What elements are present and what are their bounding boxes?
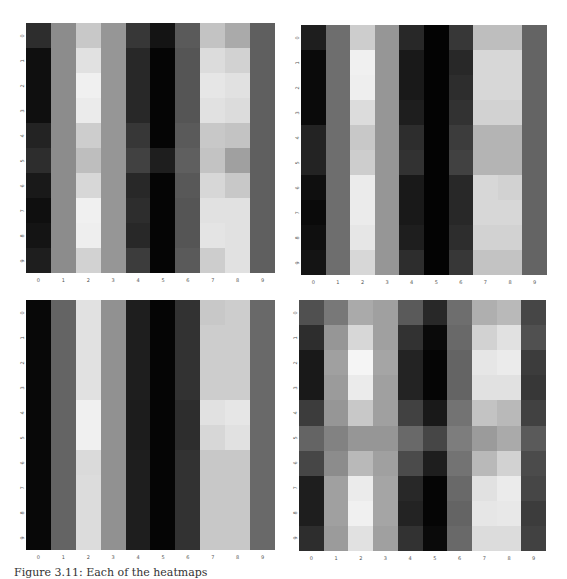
heatmap-cell bbox=[398, 451, 423, 476]
x-tick-label: 4 bbox=[126, 277, 151, 283]
heatmap-cell bbox=[51, 400, 76, 425]
heatmap-cell bbox=[348, 426, 373, 451]
heatmap-cell bbox=[375, 200, 400, 225]
y-tick-label: 8 bbox=[289, 225, 298, 250]
heatmap-cell bbox=[301, 250, 326, 275]
heatmap-cell bbox=[126, 48, 151, 73]
x-tick-label: 1 bbox=[326, 279, 351, 285]
heatmap-cell bbox=[26, 123, 51, 148]
heatmap-cell bbox=[324, 325, 349, 350]
heatmap-cell bbox=[473, 50, 498, 75]
x-tick-label: 1 bbox=[324, 555, 349, 561]
heatmap-cell bbox=[51, 450, 76, 475]
heatmap-plot-area bbox=[26, 300, 275, 550]
heatmap-cell bbox=[175, 325, 200, 350]
heatmap-cell bbox=[26, 375, 51, 400]
heatmap-cell bbox=[301, 50, 326, 75]
heatmap-cell bbox=[51, 73, 76, 98]
heatmap-cell bbox=[26, 500, 51, 525]
heatmap-cell bbox=[424, 75, 449, 100]
heatmap-cell bbox=[150, 450, 175, 475]
heatmap-cell bbox=[175, 73, 200, 98]
heatmap-cell bbox=[498, 225, 523, 250]
heatmap-cell bbox=[473, 225, 498, 250]
heatmap-cell bbox=[424, 200, 449, 225]
x-tick-label: 0 bbox=[301, 279, 326, 285]
heatmap-cell bbox=[200, 425, 225, 450]
heatmap-cell bbox=[76, 248, 101, 273]
heatmap-cell bbox=[101, 98, 126, 123]
heatmap-cell bbox=[398, 375, 423, 400]
y-tick-label: 1 bbox=[287, 325, 296, 350]
heatmap-cell bbox=[473, 25, 498, 50]
heatmap-cell bbox=[76, 325, 101, 350]
heatmap-cell bbox=[301, 225, 326, 250]
heatmap-cell bbox=[521, 325, 546, 350]
heatmap-cell bbox=[522, 25, 547, 50]
heatmap-cell bbox=[497, 350, 522, 375]
y-axis-ticks: 0123456789 bbox=[14, 300, 23, 550]
heatmap-cell bbox=[449, 100, 474, 125]
heatmap-cell bbox=[26, 325, 51, 350]
heatmap-cell bbox=[521, 526, 546, 551]
heatmap-cell bbox=[126, 123, 151, 148]
heatmap-cell bbox=[375, 175, 400, 200]
x-tick-label: 7 bbox=[472, 555, 497, 561]
heatmap-cell bbox=[497, 476, 522, 501]
heatmap-cell bbox=[250, 173, 275, 198]
heatmap-cell bbox=[373, 375, 398, 400]
heatmap-cell bbox=[150, 425, 175, 450]
heatmap-cell bbox=[225, 23, 250, 48]
heatmap-cell bbox=[399, 200, 424, 225]
heatmap-cell bbox=[200, 450, 225, 475]
x-tick-label: 6 bbox=[447, 555, 472, 561]
heatmap-cell bbox=[398, 325, 423, 350]
heatmap-cell bbox=[424, 225, 449, 250]
heatmap-cell bbox=[175, 300, 200, 325]
x-tick-label: 8 bbox=[497, 555, 522, 561]
x-tick-label: 5 bbox=[151, 554, 176, 560]
heatmap-cell bbox=[101, 475, 126, 500]
heatmap-cell bbox=[76, 23, 101, 48]
heatmap-cell bbox=[301, 25, 326, 50]
heatmap-cell bbox=[225, 248, 250, 273]
heatmap-cell bbox=[175, 500, 200, 525]
heatmap-cell bbox=[473, 100, 498, 125]
heatmap-cell bbox=[126, 375, 151, 400]
heatmap-cell bbox=[326, 225, 351, 250]
heatmap-cell bbox=[250, 223, 275, 248]
x-tick-label: 9 bbox=[522, 279, 547, 285]
heatmap-cell bbox=[101, 223, 126, 248]
heatmap-cell bbox=[150, 148, 175, 173]
heatmap-cell bbox=[449, 150, 474, 175]
y-tick-label: 8 bbox=[14, 500, 23, 525]
heatmap-cell bbox=[250, 123, 275, 148]
heatmap-cell bbox=[498, 175, 523, 200]
heatmap-cell bbox=[350, 75, 375, 100]
heatmap-cell bbox=[76, 475, 101, 500]
y-tick-label: 2 bbox=[289, 75, 298, 100]
heatmap-cell bbox=[375, 25, 400, 50]
heatmap-cell bbox=[76, 425, 101, 450]
heatmap-cell bbox=[472, 350, 497, 375]
heatmap-cell bbox=[175, 450, 200, 475]
heatmap-cell bbox=[200, 500, 225, 525]
heatmap-cell bbox=[348, 451, 373, 476]
heatmap-cell bbox=[200, 525, 225, 550]
heatmap-cell bbox=[76, 525, 101, 550]
heatmap-cell bbox=[26, 73, 51, 98]
heatmap-cell bbox=[326, 50, 351, 75]
heatmap-cell bbox=[250, 475, 275, 500]
heatmap-cell bbox=[51, 48, 76, 73]
x-tick-label: 7 bbox=[200, 277, 225, 283]
heatmap-cell bbox=[375, 225, 400, 250]
heatmap-cell bbox=[497, 526, 522, 551]
y-tick-label: 9 bbox=[289, 250, 298, 275]
heatmap-cell bbox=[423, 501, 448, 526]
y-tick-label: 6 bbox=[289, 175, 298, 200]
heatmap-cell bbox=[447, 501, 472, 526]
x-tick-label: 5 bbox=[151, 277, 176, 283]
heatmap-cell bbox=[200, 198, 225, 223]
heatmap-cell bbox=[76, 223, 101, 248]
heatmap-cell bbox=[51, 223, 76, 248]
